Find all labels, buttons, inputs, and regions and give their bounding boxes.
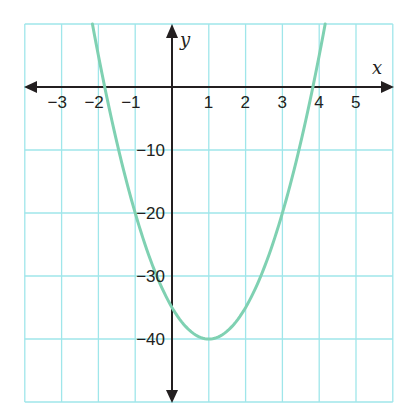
y-axis-label: y [179,29,191,50]
y-tick-label: −40 [136,330,165,349]
x-axis-left-arrow-icon [24,81,37,93]
y-tick-label: −30 [136,267,165,286]
y-tick-labels: −10−20−30−40 [136,141,165,349]
parabola-chart: −3−2−112345 −10−20−30−40 x y [0,0,416,416]
y-axis-up-arrow-icon [166,24,178,38]
x-tick-label: 2 [241,93,250,112]
x-tick-label: −2 [84,93,103,112]
x-tick-labels: −3−2−112345 [48,93,361,112]
x-tick-label: 3 [277,93,286,112]
x-tick-label: 4 [314,93,323,112]
x-axis-right-arrow-icon [381,81,394,93]
y-tick-label: −20 [136,204,165,223]
x-tick-label: 1 [204,93,213,112]
grid-lines [25,24,393,402]
y-tick-label: −10 [136,141,165,160]
x-axis-label: x [372,57,382,78]
x-tick-label: −3 [48,93,67,112]
x-tick-label: −1 [121,93,140,112]
y-axis-down-arrow-icon [166,390,178,403]
x-tick-label: 5 [351,93,360,112]
